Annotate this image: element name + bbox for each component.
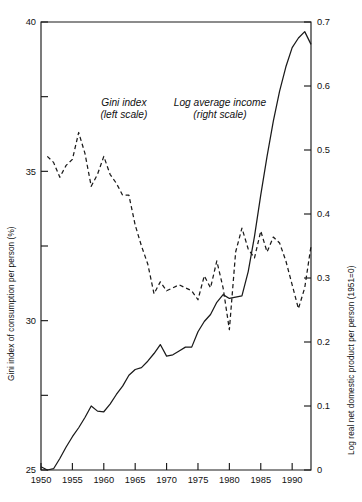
right-tick-label: 0.4 [317, 209, 330, 219]
right-tick-label: 0.7 [317, 17, 330, 27]
bottom-tick-label: 1965 [125, 475, 146, 485]
chart-canvas: 25303540 00.10.20.30.40.50.60.7 19501955… [0, 0, 362, 502]
right-tick-label: 0.1 [317, 401, 330, 411]
left-tick-label: 40 [26, 17, 36, 27]
left-axis-title: Gini index of consumption per person (%) [7, 226, 16, 381]
bottom-tick-label: 1970 [156, 475, 177, 485]
right-tick-label: 0.5 [317, 145, 330, 155]
bottom-tick-label: 1950 [31, 475, 52, 485]
gini-annotation-line1: Gini index [101, 97, 147, 108]
right-tick-label: 0.3 [317, 273, 330, 283]
chart-background [0, 0, 362, 502]
income-annotation-line2: (right scale) [193, 109, 246, 120]
bottom-tick-label: 1985 [250, 475, 271, 485]
gini-annotation: Gini index(left scale) [100, 97, 147, 120]
right-axis-title: Log real net domestic product per person… [347, 265, 356, 455]
bottom-tick-label: 1975 [188, 475, 209, 485]
left-tick-label: 25 [26, 465, 36, 475]
figure-root: 25303540 00.10.20.30.40.50.60.7 19501955… [0, 0, 362, 502]
income-annotation-line1: Log average income [174, 97, 267, 108]
bottom-tick-label: 1960 [93, 475, 114, 485]
gini-annotation-line2: (left scale) [100, 109, 147, 120]
left-tick-label: 30 [26, 316, 36, 326]
left-tick-label: 35 [26, 167, 36, 177]
right-tick-label: 0.2 [317, 337, 330, 347]
bottom-tick-label: 1980 [219, 475, 240, 485]
bottom-tick-label: 1955 [62, 475, 83, 485]
right-tick-label: 0 [317, 465, 322, 475]
right-tick-label: 0.6 [317, 81, 330, 91]
bottom-tick-label: 1990 [282, 475, 303, 485]
